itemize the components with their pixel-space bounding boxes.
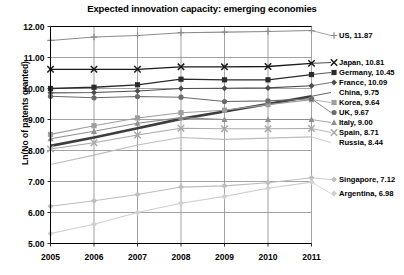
x-tick-label: 2010	[259, 252, 278, 262]
leader-line-france	[312, 83, 332, 86]
y-tick-label: 8.00	[28, 146, 45, 156]
leader-line-china	[312, 93, 332, 97]
data-marker	[91, 85, 96, 90]
x-tick-label: 2005	[41, 252, 60, 262]
data-marker	[178, 95, 183, 100]
y-tick-label: 5.00	[28, 239, 45, 249]
series-label-italy: Italy, 9.00	[339, 118, 373, 127]
data-marker	[331, 32, 337, 38]
data-marker	[222, 99, 227, 104]
y-tick-label: 6.00	[28, 208, 45, 218]
gridlines	[51, 27, 312, 244]
leader-line-us	[312, 31, 332, 36]
y-tick-labels: 5.006.007.008.009.0010.0011.0012.00	[23, 22, 50, 249]
leader-line-argentina	[312, 182, 332, 193]
data-marker	[135, 94, 140, 99]
series-label-argentina: Argentina, 6.98	[339, 189, 393, 198]
data-marker	[222, 85, 228, 91]
data-marker	[331, 129, 337, 135]
series-label-singapore: Singapore, 7.12	[339, 175, 395, 184]
data-marker	[331, 191, 337, 197]
data-marker	[135, 192, 141, 198]
series-label-japan: Japan, 10.81	[339, 58, 385, 67]
data-marker	[91, 90, 97, 96]
x-tick-label: 2009	[215, 252, 234, 262]
x-tick-label: 2008	[172, 252, 191, 262]
data-marker	[134, 32, 140, 38]
data-marker	[178, 184, 184, 190]
data-marker	[91, 34, 97, 40]
data-marker	[331, 70, 336, 75]
data-marker	[265, 77, 270, 82]
data-marker	[331, 100, 336, 105]
data-marker	[178, 30, 184, 36]
data-marker	[178, 86, 184, 92]
data-marker	[331, 59, 337, 65]
data-marker	[265, 180, 271, 186]
data-marker	[265, 85, 271, 91]
series-label-china: China, 9.75	[339, 88, 380, 97]
data-marker	[222, 108, 227, 113]
data-marker	[91, 221, 97, 227]
data-marker	[265, 98, 270, 103]
data-marker	[222, 193, 228, 199]
data-marker	[221, 29, 227, 35]
data-marker	[331, 80, 337, 86]
chart-container: Expected innovation capacity: emerging e…	[0, 0, 404, 275]
y-tick-label: 11.00	[24, 53, 45, 63]
data-marker	[91, 95, 96, 100]
data-marker	[222, 77, 227, 82]
series-label-uk: UK, 9.67	[339, 108, 369, 117]
series-labels: US, 11.87Japan, 10.81Germany, 10.45Franc…	[312, 31, 396, 198]
line-chart-plot: 5.006.007.008.009.0010.0011.0012.00 2005…	[0, 0, 404, 275]
data-marker	[135, 210, 141, 216]
x-tick-label: 2006	[85, 252, 104, 262]
data-marker	[331, 110, 336, 115]
y-tick-label: 7.00	[28, 177, 45, 187]
leader-line-germany	[312, 73, 332, 75]
data-marker	[178, 200, 184, 206]
x-tick-label: 2007	[128, 252, 147, 262]
data-marker	[265, 185, 271, 191]
data-marker	[91, 198, 97, 204]
data-marker	[222, 183, 228, 189]
data-marker	[265, 28, 271, 34]
series-label-russia: Russia, 8.44	[339, 138, 384, 147]
y-tick-label: 10.00	[23, 84, 45, 94]
data-marker	[91, 123, 96, 128]
series-label-us: US, 11.87	[339, 31, 372, 40]
series-label-france: France, 10.09	[339, 78, 387, 87]
series-label-germany: Germany, 10.45	[339, 68, 395, 77]
data-marker	[135, 82, 140, 87]
data-marker	[135, 115, 140, 120]
x-tick-labels: 2005200620072008200920102011	[41, 244, 321, 262]
series-label-korea: Korea, 9.64	[339, 98, 380, 107]
data-marker	[331, 177, 337, 183]
data-marker	[331, 119, 337, 125]
x-tick-label: 2011	[302, 252, 321, 262]
leader-line-japan	[312, 63, 332, 64]
leader-line-russia	[312, 137, 332, 143]
data-marker	[178, 77, 183, 82]
data-marker	[308, 27, 314, 33]
series-label-spain: Spain, 8.71	[339, 128, 379, 137]
y-tick-label: 12.00	[23, 22, 45, 32]
leader-line-singapore	[312, 178, 332, 180]
y-tick-label: 9.00	[28, 115, 45, 125]
